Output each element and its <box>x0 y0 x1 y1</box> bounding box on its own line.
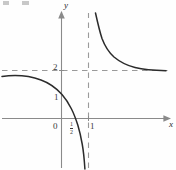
y-tick-label-2: 2 <box>53 63 58 72</box>
graph-canvas <box>0 0 176 170</box>
origin-label: 0 <box>53 122 58 131</box>
x-tick-label-one-half: 1 2 <box>70 121 73 137</box>
x-tick-label-1: 1 <box>90 122 95 131</box>
y-tick-label-1: 1 <box>54 93 59 102</box>
fraction-denominator: 2 <box>70 129 73 135</box>
x-axis-label: x <box>169 120 173 129</box>
fraction-numerator: 1 <box>70 121 73 127</box>
y-axis-label: y <box>64 1 68 10</box>
graph-figure: y x 0 2 1 1 2 1 <box>0 0 176 170</box>
curve-right-branch <box>96 13 167 71</box>
